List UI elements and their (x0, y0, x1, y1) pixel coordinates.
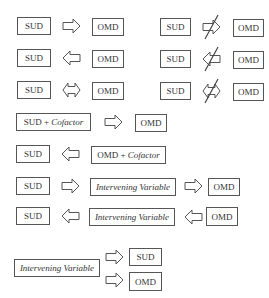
sud-box: SUD (129, 248, 162, 266)
causal-relationship-diagram: SUD OMD SUD OMD SUD OMD SUD OMD SUD OMD … (0, 0, 269, 298)
left-arrow-icon (61, 146, 80, 162)
plus-label: + (118, 150, 128, 160)
omd-box: OMD (92, 50, 124, 68)
sud-box: SUD (17, 49, 51, 67)
negated-right-arrow-icon (202, 14, 221, 40)
sud-box: SUD (17, 17, 51, 35)
sud-box: SUD (16, 207, 50, 225)
omd-label: OMD (97, 150, 118, 160)
omd-box: OMD (208, 178, 240, 196)
intervening-variable-box: Intervening Variable (14, 259, 100, 277)
omd-box: OMD (135, 114, 167, 132)
left-arrow-icon (61, 208, 80, 224)
omd-box: OMD (206, 207, 238, 226)
intervening-variable-box: Intervening Variable (89, 208, 175, 226)
sud-box: SUD (17, 81, 51, 99)
sud-box: SUD (160, 82, 191, 100)
bidirectional-arrow-icon (62, 82, 81, 98)
plus-label: + (42, 117, 52, 127)
sud-box: SUD (16, 145, 50, 163)
omd-box: OMD (129, 272, 162, 291)
omd-box: OMD (92, 18, 124, 36)
omd-box: OMD (233, 83, 264, 101)
intervening-variable-box: Intervening Variable (90, 178, 176, 196)
sud-box: SUD (16, 177, 50, 195)
right-arrow-icon (105, 249, 124, 265)
sud-label: SUD (24, 117, 42, 127)
right-arrow-icon (105, 272, 124, 288)
right-arrow-icon (184, 178, 203, 194)
left-arrow-icon (62, 50, 81, 66)
negated-bidirectional-arrow-icon (202, 78, 221, 104)
sud-box: SUD (160, 50, 191, 68)
sud-box: SUD (160, 18, 191, 36)
omd-box: OMD (233, 19, 264, 37)
omd-box: OMD (92, 82, 124, 100)
cofactor-label: Cofactor (51, 117, 83, 127)
right-arrow-icon (61, 178, 80, 194)
omd-box: OMD (233, 51, 264, 69)
right-arrow-icon (62, 18, 81, 34)
negated-left-arrow-icon (202, 46, 221, 72)
right-arrow-icon (104, 114, 123, 130)
left-arrow-icon (184, 209, 203, 225)
sud-cofactor-box: SUD + Cofactor (16, 113, 91, 131)
omd-cofactor-box: OMD + Cofactor (91, 146, 166, 164)
cofactor-label: Cofactor (128, 150, 160, 160)
